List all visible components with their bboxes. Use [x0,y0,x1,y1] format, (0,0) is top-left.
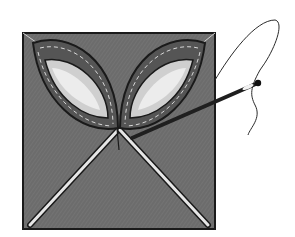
quilt-block-drawing [0,0,295,237]
illustration [0,0,295,237]
thread [215,20,279,135]
